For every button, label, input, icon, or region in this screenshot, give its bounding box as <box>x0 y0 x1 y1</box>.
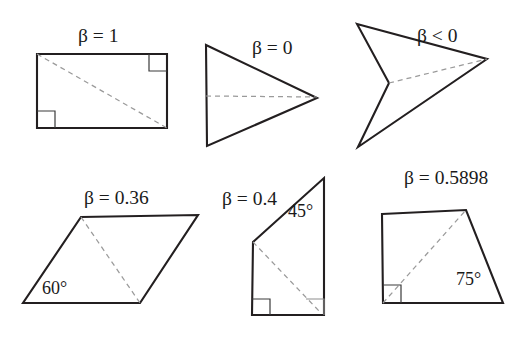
beta-label-dart: β < 0 <box>417 26 457 46</box>
beta-label-rectangle: β = 1 <box>78 26 118 46</box>
beta-label-slanted-quad: β = 0.5898 <box>404 168 488 188</box>
geometry-figure: β = 1 β = 0 β < 0 β = 0.36 β = 0.4 β = 0… <box>0 0 523 337</box>
shape-slanted-quad <box>382 210 503 303</box>
beta-label-parallelogram: β = 0.36 <box>84 188 149 208</box>
shape-rectangle <box>37 54 167 128</box>
angle-label-45: 45° <box>288 202 313 220</box>
angle-label-60: 60° <box>42 279 67 297</box>
beta-label-triangle: β = 0 <box>252 38 292 58</box>
triangle-outline <box>206 45 317 146</box>
angle-label-75: 75° <box>456 270 481 288</box>
beta-label-right-quad: β = 0.4 <box>222 189 277 209</box>
shape-triangle <box>206 45 317 146</box>
slanted-quad-outline <box>382 210 503 303</box>
